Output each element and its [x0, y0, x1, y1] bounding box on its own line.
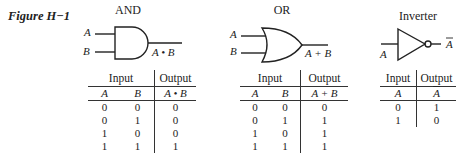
inverter-col-a: A — [380, 87, 417, 101]
cell: 1 — [380, 114, 417, 127]
table-row: 1 0 — [380, 114, 456, 127]
inverter-input-a-label: A — [380, 48, 387, 60]
inverter-col-out: A — [417, 87, 457, 101]
cell: 0 — [380, 101, 417, 115]
cell: 1 — [417, 101, 457, 115]
table-row: 0 1 — [380, 101, 456, 115]
inverter-output-header: Output — [417, 70, 457, 87]
inverter-truth-table: Input Output A A 0 1 1 0 — [380, 70, 456, 127]
cell: 0 — [417, 114, 457, 127]
inverter-input-header: Input — [380, 70, 417, 87]
inverter-col-out-label: A — [433, 87, 440, 99]
inverter-output-label: A — [446, 38, 453, 50]
